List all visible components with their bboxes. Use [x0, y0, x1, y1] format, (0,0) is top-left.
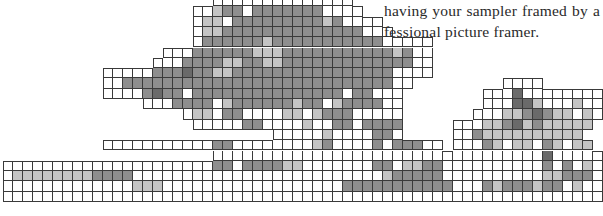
- stitch-cell: [323, 120, 333, 130]
- stitch-cell: [273, 120, 283, 130]
- stitch-cell: [563, 130, 573, 140]
- stitch-cell: [223, 37, 233, 47]
- stitch-cell: [573, 89, 583, 99]
- stitch-cell: [253, 192, 263, 202]
- stitch-cell: [403, 140, 413, 150]
- stitch-cell: [413, 58, 423, 68]
- stitch-cell: [233, 58, 243, 68]
- stitch-cell: [363, 68, 373, 78]
- stitch-cell: [323, 6, 333, 16]
- stitch-cell: [203, 17, 213, 27]
- stitch-cell: [193, 58, 203, 68]
- stitch-cell: [523, 120, 533, 130]
- stitch-cell: [353, 89, 363, 99]
- stitch-cell: [273, 78, 283, 88]
- stitch-cell: [273, 181, 283, 191]
- stitch-cell: [383, 48, 393, 58]
- stitch-cell: [163, 68, 173, 78]
- stitch-cell: [143, 78, 153, 88]
- stitch-cell: [203, 181, 213, 191]
- stitch-cell: [133, 161, 143, 171]
- stitch-cell: [253, 58, 263, 68]
- stitch-cell: [493, 161, 503, 171]
- stitch-cell: [583, 161, 593, 171]
- stitch-cell: [133, 171, 143, 181]
- stitch-cell: [313, 27, 323, 37]
- stitch-cell: [233, 109, 243, 119]
- stitch-cell: [473, 192, 483, 202]
- stitch-cell: [423, 171, 433, 181]
- stitch-cell: [253, 120, 263, 130]
- stitch-cell: [563, 161, 573, 171]
- stitch-cell: [193, 120, 203, 130]
- stitch-cell: [233, 99, 243, 109]
- stitch-cell: [283, 161, 293, 171]
- stitch-cell: [173, 68, 183, 78]
- stitch-cell: [393, 130, 403, 140]
- stitch-cell: [353, 6, 363, 16]
- stitch-cell: [313, 58, 323, 68]
- stitch-cell: [393, 78, 403, 88]
- stitch-cell: [583, 181, 593, 191]
- stitch-cell: [313, 6, 323, 16]
- stitch-cell: [203, 78, 213, 88]
- stitch-cell: [333, 27, 343, 37]
- stitch-cell: [143, 89, 153, 99]
- stitch-cell: [463, 130, 473, 140]
- stitch-cell: [233, 181, 243, 191]
- stitch-cell: [483, 89, 493, 99]
- stitch-cell: [363, 192, 373, 202]
- stitch-cell: [123, 171, 133, 181]
- stitch-cell: [333, 171, 343, 181]
- stitch-cell: [543, 120, 553, 130]
- stitch-cell: [163, 161, 173, 171]
- stitch-cell: [433, 140, 443, 150]
- stitch-cell: [363, 58, 373, 68]
- stitch-cell: [23, 161, 33, 171]
- stitch-cell: [303, 68, 313, 78]
- stitch-cell: [303, 161, 313, 171]
- stitch-cell: [283, 151, 293, 161]
- stitch-cell: [203, 27, 213, 37]
- stitch-cell: [533, 130, 543, 140]
- stitch-cell: [193, 27, 203, 37]
- stitch-cell: [373, 109, 383, 119]
- stitch-cell: [93, 181, 103, 191]
- stitch-cell: [483, 140, 493, 150]
- stitch-cell: [563, 181, 573, 191]
- stitch-cell: [293, 130, 303, 140]
- stitch-cell: [383, 109, 393, 119]
- stitch-cell: [353, 99, 363, 109]
- stitch-cell: [233, 17, 243, 27]
- stitch-cell: [593, 171, 603, 181]
- stitch-cell: [213, 68, 223, 78]
- stitch-cell: [583, 109, 593, 119]
- stitch-cell: [333, 6, 343, 16]
- stitch-cell: [383, 181, 393, 191]
- stitch-cell: [263, 37, 273, 47]
- stitch-cell: [103, 161, 113, 171]
- stitch-cell: [273, 48, 283, 58]
- stitch-cell: [13, 192, 23, 202]
- stitch-cell: [173, 48, 183, 58]
- stitch-cell: [153, 68, 163, 78]
- stitch-cell: [393, 171, 403, 181]
- stitch-cell: [283, 140, 293, 150]
- stitch-cell: [3, 171, 13, 181]
- stitch-cell: [143, 99, 153, 109]
- stitch-cell: [313, 17, 323, 27]
- stitch-cell: [463, 161, 473, 171]
- stitch-cell: [433, 192, 443, 202]
- stitch-cell: [253, 99, 263, 109]
- stitch-cell: [183, 181, 193, 191]
- stitch-cell: [463, 151, 473, 161]
- stitch-cell: [293, 78, 303, 88]
- stitch-cell: [333, 109, 343, 119]
- stitch-cell: [183, 161, 193, 171]
- stitch-cell: [163, 48, 173, 58]
- stitch-cell: [323, 99, 333, 109]
- stitch-cell: [523, 161, 533, 171]
- stitch-cell: [213, 181, 223, 191]
- stitch-cell: [463, 192, 473, 202]
- stitch-cell: [113, 181, 123, 191]
